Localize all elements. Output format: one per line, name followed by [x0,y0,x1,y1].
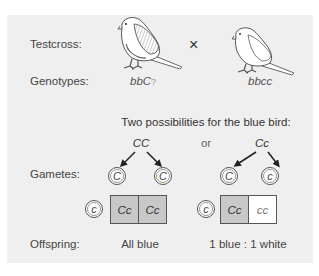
case-1-offspring-cell-2: Cc [138,195,167,224]
case-2-result: 1 blue : 1 white [209,238,286,250]
case-2-offspring-cell-1: Cc [220,195,249,224]
case-1-result: All blue [121,238,159,250]
gamete-arrows [0,0,319,276]
case-2-gamete-1: C [220,167,238,185]
case-1-gamete-1: C [108,167,126,185]
case-1-offspring-cell-1: Cc [110,195,139,224]
case-1-gamete-2: C [154,167,172,185]
case-2-tester-gamete: c [197,200,215,218]
case-1-tester-gamete: c [85,200,103,218]
case-2-offspring-cell-2: cc [248,195,277,224]
case-2-gamete-2: c [261,167,279,185]
